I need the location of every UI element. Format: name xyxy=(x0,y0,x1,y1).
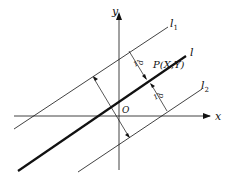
perp-upper-arrow-icon xyxy=(142,74,147,80)
x-axis-label: x xyxy=(215,110,222,123)
x-axis-arrow-icon xyxy=(203,113,211,119)
perp-lower-arrow-icon xyxy=(150,83,155,88)
l-label: l xyxy=(190,46,194,59)
perp-long-bottom-arrow-icon xyxy=(125,133,130,138)
y-axis-label: y xyxy=(111,5,119,18)
l2-label: l2 xyxy=(201,79,209,94)
line-l xyxy=(18,56,186,171)
line-l2 xyxy=(78,89,202,172)
point-label: P(X,Y) xyxy=(152,59,185,70)
diagram-canvas: y x O l1 l l2 P(X,Y) d d 1 1 xyxy=(0,0,234,185)
origin-label: O xyxy=(122,105,130,115)
l1-label: l1 xyxy=(170,17,178,32)
